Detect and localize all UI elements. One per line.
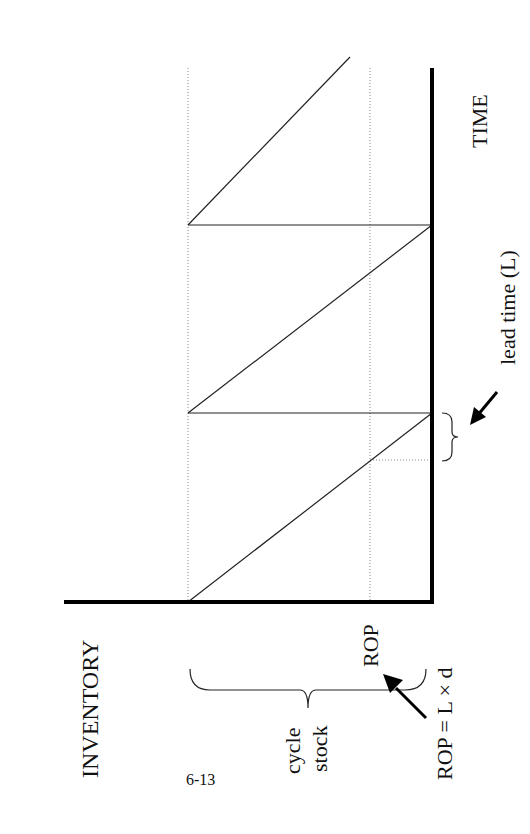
cycle-stock-label-line1: cycle xyxy=(280,728,305,774)
x-axis-label: TIME xyxy=(467,94,492,148)
lead-time-brace xyxy=(442,413,458,461)
lead-time-label: lead time (L) xyxy=(495,250,520,365)
page-number: 6-13 xyxy=(186,771,215,788)
inventory-diagram: INVENTORY TIME ROP cycle stock ROP = L ×… xyxy=(0,0,530,834)
y-axis-label: INVENTORY xyxy=(77,640,103,778)
cycle-stock-label-line2: stock xyxy=(307,726,332,772)
rop-label: ROP xyxy=(358,624,383,667)
rop-formula-label: ROP = L × d xyxy=(432,668,457,780)
lead-time-arrow-icon xyxy=(470,392,497,425)
guide-lines xyxy=(188,68,432,602)
axes xyxy=(64,68,434,604)
rop-arrow-icon xyxy=(383,674,426,718)
sawtooth-line xyxy=(188,57,432,602)
